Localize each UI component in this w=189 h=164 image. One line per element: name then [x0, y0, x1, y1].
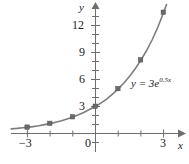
- data-point: [25, 125, 29, 129]
- y-tick-label-9: 9: [79, 46, 85, 58]
- data-point: [70, 115, 74, 119]
- data-point: [116, 86, 120, 90]
- x-tick-label-3: 3: [160, 137, 166, 149]
- y-axis-label: y: [79, 2, 84, 13]
- x-axis-arrowhead: [178, 130, 186, 138]
- equation-annotation: y = 3e0.5x: [131, 77, 171, 89]
- data-point: [138, 58, 142, 62]
- data-point: [161, 10, 165, 14]
- y-tick-label-3: 3: [79, 100, 85, 112]
- x-tick-label-neg3: −3: [19, 137, 32, 149]
- equation-exponent: 0.5x: [159, 76, 171, 84]
- exponential-function-graph: y x 12 9 6 3 −3 0 3 y = 3e0.5x: [0, 0, 189, 164]
- exponential-curve: [11, 5, 166, 129]
- y-tick-label-6: 6: [79, 73, 85, 85]
- y-tick-label-12: 12: [72, 19, 84, 31]
- x-tick-label-0: 0: [85, 137, 91, 149]
- data-point: [48, 121, 52, 125]
- y-axis-arrowhead: [92, 2, 100, 9]
- data-point: [93, 104, 97, 108]
- equation-base: y = 3e: [131, 77, 159, 89]
- x-axis-label: x: [178, 140, 183, 151]
